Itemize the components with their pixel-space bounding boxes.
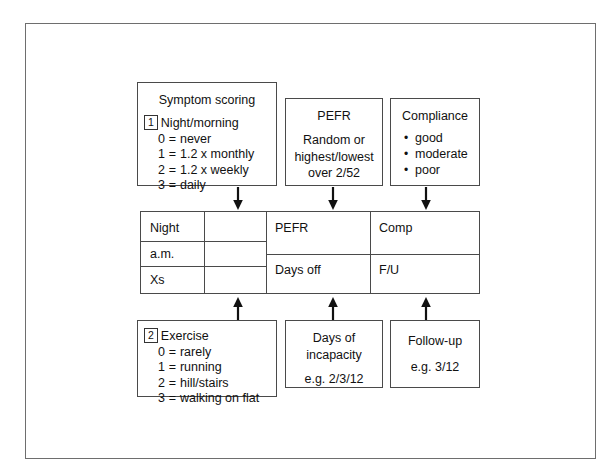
record-table: Night a.m. Xs PEFR Comp Days off F/U <box>140 211 480 294</box>
pefr-line-3: over 2/52 <box>286 165 382 182</box>
marker-2-icon: 2 <box>144 328 158 343</box>
symptom-option-1-label: 1.2 x monthly <box>180 147 254 161</box>
symptom-heading-label: Night/morning <box>161 116 239 130</box>
compliance-box: Compliance good moderate poor <box>390 98 480 186</box>
exercise-list: 2Exercise 0=rarely 1=running 2=hill/stai… <box>138 328 276 407</box>
pefr-line-2: highest/lowest <box>286 149 382 166</box>
table-cell-xs: Xs <box>150 273 165 287</box>
incapacity-description: Days of incapacity <box>286 330 382 363</box>
exercise-option-0-label: rarely <box>180 345 211 359</box>
exercise-option-0-score: 0 <box>158 345 165 359</box>
symptom-scoring-list: 1Night/morning 0=never 1=1.2 x monthly 2… <box>138 115 276 194</box>
arrow-down-pefr-to-table <box>326 187 340 211</box>
symptom-option-2: 2=1.2 x weekly <box>138 163 276 179</box>
compliance-title: Compliance <box>391 108 479 124</box>
compliance-list: good moderate poor <box>391 130 479 178</box>
compliance-item-2: poor <box>404 162 479 178</box>
table-vline-3 <box>370 212 371 293</box>
symptom-scoring-box: Symptom scoring 1Night/morning 0=never 1… <box>137 82 277 186</box>
table-cell-fu: F/U <box>379 263 399 277</box>
arrow-up-incapacity-to-table <box>326 296 340 320</box>
exercise-option-1: 1=running <box>138 360 276 376</box>
followup-example: e.g. 3/12 <box>391 359 479 376</box>
incapacity-line-1: Days of <box>286 330 382 347</box>
table-vline-2 <box>266 212 267 293</box>
compliance-item-1: moderate <box>404 146 479 162</box>
exercise-option-1-eq: = <box>165 360 180 376</box>
symptom-option-0-eq: = <box>165 132 180 148</box>
arrow-up-exercise-to-table <box>231 296 245 320</box>
exercise-option-1-score: 1 <box>158 360 165 374</box>
exercise-option-3-score: 3 <box>158 391 165 405</box>
table-cell-pefr: PEFR <box>275 221 308 235</box>
symptom-option-1-score: 1 <box>158 147 165 161</box>
exercise-option-3-label: walking on flat <box>180 391 259 405</box>
exercise-heading-row: 2Exercise <box>138 328 276 345</box>
exercise-option-2-label: hill/stairs <box>180 376 229 390</box>
followup-box: Follow-up e.g. 3/12 <box>390 320 480 388</box>
table-cell-am: a.m. <box>150 247 174 261</box>
diagram-page: Symptom scoring 1Night/morning 0=never 1… <box>0 0 613 472</box>
symptom-option-3-eq: = <box>165 178 180 194</box>
symptom-scoring-title: Symptom scoring <box>138 92 276 108</box>
exercise-option-3-eq: = <box>165 391 180 407</box>
incapacity-box: Days of incapacity e.g. 2/3/12 <box>285 320 383 388</box>
table-vline-1 <box>204 212 205 293</box>
table-cell-night: Night <box>150 221 179 235</box>
arrow-up-followup-to-table <box>419 296 433 320</box>
symptom-option-0-score: 0 <box>158 132 165 146</box>
symptom-option-1-eq: = <box>165 147 180 163</box>
symptom-option-0: 0=never <box>138 132 276 148</box>
table-cell-days-off: Days off <box>275 263 321 277</box>
symptom-option-2-score: 2 <box>158 163 165 177</box>
exercise-option-2-score: 2 <box>158 376 165 390</box>
incapacity-example: e.g. 2/3/12 <box>286 371 382 388</box>
table-cell-comp: Comp <box>379 221 412 235</box>
symptom-option-3-label: daily <box>180 178 206 192</box>
exercise-option-2-eq: = <box>165 376 180 392</box>
symptom-option-3-score: 3 <box>158 178 165 192</box>
exercise-option-2: 2=hill/stairs <box>138 376 276 392</box>
symptom-option-3: 3=daily <box>138 178 276 194</box>
symptom-option-1: 1=1.2 x monthly <box>138 147 276 163</box>
marker-1-icon: 1 <box>144 115 158 130</box>
pefr-description: Random or highest/lowest over 2/52 <box>286 132 382 182</box>
incapacity-line-2: incapacity <box>286 347 382 364</box>
table-hline-right-1 <box>266 254 479 255</box>
exercise-option-3: 3=walking on flat <box>138 391 276 407</box>
arrow-down-symptom-to-table <box>231 187 245 211</box>
pefr-title: PEFR <box>286 108 382 124</box>
exercise-option-1-label: running <box>180 360 222 374</box>
exercise-option-0: 0=rarely <box>138 345 276 361</box>
followup-line-1: Follow-up <box>391 333 479 350</box>
exercise-heading-label: Exercise <box>161 329 209 343</box>
table-hline-left-1 <box>141 241 266 242</box>
table-hline-left-2 <box>141 266 266 267</box>
symptom-heading-row: 1Night/morning <box>138 115 276 132</box>
compliance-item-0: good <box>404 130 479 146</box>
pefr-box: PEFR Random or highest/lowest over 2/52 <box>285 98 383 186</box>
exercise-box: 2Exercise 0=rarely 1=running 2=hill/stai… <box>137 320 277 397</box>
arrow-down-compliance-to-table <box>419 187 433 211</box>
symptom-option-2-eq: = <box>165 163 180 179</box>
pefr-line-1: Random or <box>286 132 382 149</box>
symptom-option-2-label: 1.2 x weekly <box>180 163 249 177</box>
symptom-option-0-label: never <box>180 132 211 146</box>
exercise-option-0-eq: = <box>165 345 180 361</box>
